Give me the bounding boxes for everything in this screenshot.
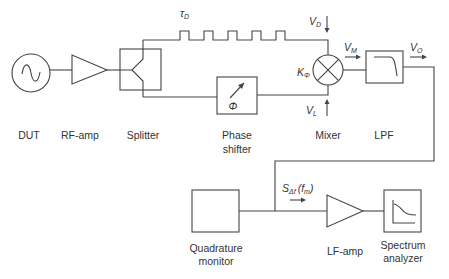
lpf-block — [366, 51, 403, 83]
kphi-label: KΦ — [297, 66, 310, 79]
spectrum-analyzer-box — [384, 190, 421, 232]
spectrum-analyzer-label-2: analyzer — [383, 252, 423, 264]
quadrature-monitor-label-2: monitor — [198, 255, 234, 267]
dut-label: DUT — [18, 129, 40, 141]
lpf-label: LPF — [374, 129, 393, 141]
lowpass-curve-icon — [374, 57, 397, 76]
vl-label: VL — [306, 104, 317, 117]
phase-shifter-label-1: Phase — [222, 129, 252, 141]
spectrum-plot-icon — [394, 204, 416, 215]
sine-wave-icon — [22, 65, 40, 81]
wire-phaseshifter-mixer — [257, 85, 328, 95]
phase-shifter-label-2: shifter — [223, 143, 252, 155]
spectrum-analyzer-block — [384, 190, 421, 232]
dut-block — [12, 54, 50, 92]
mixer-block — [313, 55, 343, 85]
rf-amp-icon — [72, 55, 107, 84]
splitter-label: Splitter — [127, 129, 160, 141]
lpf-box — [366, 51, 403, 83]
vd-label: VD — [309, 15, 321, 28]
mixer-label: Mixer — [315, 129, 341, 141]
quadrature-monitor-label-1: Quadrature — [189, 242, 242, 254]
phase-symbol: Φ — [229, 100, 238, 112]
spectrum-analyzer-label-1: Spectrum — [381, 239, 426, 251]
rf-amp-label: RF-amp — [61, 129, 99, 141]
vm-label: VM — [344, 41, 357, 54]
block-diagram: τD VD VM VO KΦ VL Φ SΔf(fm) DUT RF-amp S… — [0, 0, 449, 279]
splitter-upper-branch — [120, 40, 143, 70]
lf-amp-label: LF-amp — [327, 245, 363, 257]
delay-label: τD — [180, 7, 189, 20]
lf-amp-icon — [327, 195, 363, 227]
delay-line — [143, 31, 328, 55]
splitter-lower-branch — [132, 70, 143, 97]
splitter-block — [120, 40, 161, 97]
signal-label: SΔf(fm) — [282, 182, 313, 195]
vo-label: VO — [410, 41, 423, 54]
quadrature-monitor-box — [192, 190, 239, 232]
